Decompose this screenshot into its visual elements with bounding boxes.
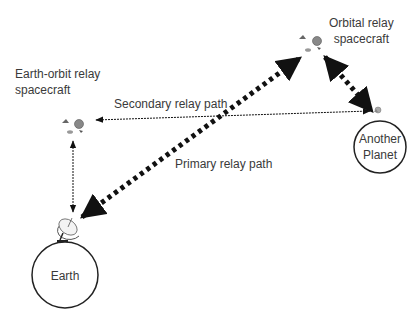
another-planet-label-line1: Another: [354, 131, 406, 147]
orbital-relay-label-line1: Orbital relay: [329, 15, 394, 31]
primary-relay-path-label: Primary relay path: [175, 156, 272, 172]
orbital-to-planet-path-line: [325, 57, 372, 111]
another-planet-label-line2: Planet: [354, 147, 406, 163]
orbital-relay-label-line2: spacecraft: [329, 31, 394, 47]
another-planet-label: Another Planet: [354, 131, 406, 163]
earth-orbit-relay-label-line1: Earth-orbit relay: [15, 66, 100, 82]
earth-orbit-spacecraft-icon: [62, 119, 84, 134]
planet-spacecraft-icon: [374, 107, 381, 113]
secondary-relay-path-line: [96, 111, 370, 120]
earth-orbit-relay-label-line2: spacecraft: [15, 82, 100, 98]
earth-orbit-relay-label: Earth-orbit relay spacecraft: [15, 66, 100, 98]
primary-relay-path-line: [82, 58, 300, 217]
dish-antenna-icon: [56, 216, 80, 241]
orbital-spacecraft-icon: [299, 35, 322, 52]
orbital-relay-label: Orbital relay spacecraft: [329, 15, 394, 47]
secondary-relay-path-label: Secondary relay path: [114, 96, 227, 112]
earth-label: Earth: [35, 268, 95, 284]
